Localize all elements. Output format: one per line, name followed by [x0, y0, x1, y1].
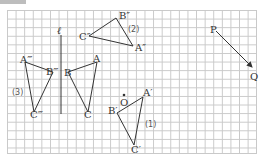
label-B1: B′	[108, 105, 118, 116]
label-2: (2)	[128, 25, 139, 34]
label-A3: A‴	[19, 54, 32, 65]
triangle-2	[89, 18, 133, 46]
line-label: ℓ	[57, 25, 61, 36]
label-1: (1)	[145, 120, 156, 129]
label-B3: B‴	[46, 66, 59, 77]
label-C1: C′	[131, 144, 142, 155]
label-3: (3)	[12, 88, 23, 97]
translation-arrow	[216, 31, 252, 67]
transformation-figure: ℓ A B C A‴ B‴ C‴ (3) B″ C″ A″ (2) O A′ B…	[0, 0, 261, 158]
label-C3: C‴	[30, 109, 43, 120]
label-C: C	[84, 109, 92, 120]
label-C2: C″	[79, 31, 91, 42]
label-B: B	[64, 67, 71, 78]
label-B2: B″	[119, 10, 130, 21]
point-O-dot	[123, 94, 126, 97]
label-P: P	[210, 24, 217, 35]
triangle-abc	[68, 62, 97, 112]
label-A2: A″	[134, 42, 146, 53]
label-Q: Q	[250, 71, 258, 82]
label-A1: A′	[142, 87, 153, 98]
label-A: A	[92, 53, 101, 64]
